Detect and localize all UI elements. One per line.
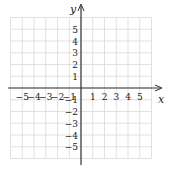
x-tick-labels: −5−4−3−2−112345: [16, 92, 143, 102]
x-tick-label: 5: [137, 92, 143, 102]
x-tick-label: 2: [102, 92, 108, 102]
y-tick-label: 2: [72, 60, 78, 70]
y-tick-label: −4: [65, 131, 79, 141]
y-tick-label: −3: [65, 119, 79, 129]
x-tick-label: 1: [90, 92, 96, 102]
y-tick-label: 1: [72, 72, 78, 82]
x-axis-label: x: [158, 93, 165, 106]
y-tick-label: −5: [65, 142, 79, 152]
y-tick-label: 3: [72, 48, 78, 58]
y-tick-label: −1: [65, 95, 78, 105]
y-tick-label: 5: [72, 25, 78, 35]
y-tick-label: −2: [65, 107, 78, 117]
x-tick-label: 3: [113, 92, 119, 102]
x-tick-label: 4: [125, 92, 131, 102]
coordinate-plane: x y −5−4−3−2−112345 54321−1−2−3−4−5: [0, 0, 172, 173]
y-tick-label: 4: [72, 37, 78, 47]
y-axis-label: y: [69, 3, 77, 16]
axes: [8, 4, 162, 165]
